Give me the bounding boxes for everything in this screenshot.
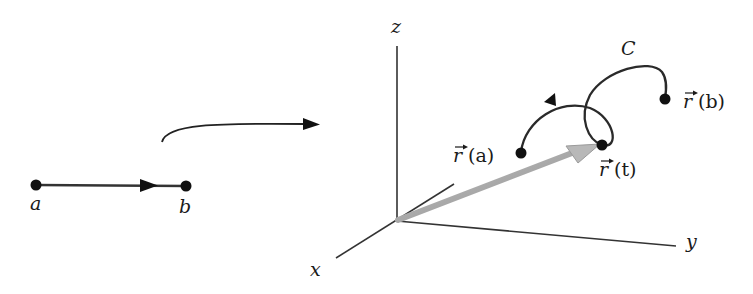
interval-end-label: b (179, 195, 191, 217)
curve-end-label-arg: (b) (698, 90, 725, 112)
curve-moving-point (597, 140, 608, 151)
position-vector (398, 144, 600, 220)
position-vector-arrowhead (566, 144, 600, 163)
x-axis-label: x (310, 258, 321, 280)
coordinate-axes: z y x (310, 15, 697, 280)
y-axis (397, 221, 676, 246)
diagram-canvas: a b z y x C r (a) (0, 0, 753, 294)
interval-start-point (31, 180, 42, 191)
mapping-arrowhead (303, 118, 320, 130)
curve-end-label: r (b) (683, 90, 725, 112)
curve-name-label: C (621, 37, 636, 59)
x-axis (336, 184, 454, 258)
interval-segment (36, 185, 186, 186)
curve-start-point (516, 148, 527, 159)
curve-direction-arrowhead (544, 93, 556, 106)
curve-point-label: r (t) (599, 158, 636, 180)
mapping-arrow-curve (162, 124, 305, 142)
interval-direction-arrowhead (140, 179, 158, 192)
curve-start-label: r (a) (453, 144, 494, 166)
space-curve: C r (a) r (t) r (b) (453, 37, 725, 180)
curve-point-label-arg: (t) (614, 158, 636, 180)
mapping-arrow (162, 118, 320, 142)
interval-start-label: a (30, 192, 41, 214)
parameter-interval: a b (30, 179, 192, 217)
curve-end-point (660, 94, 671, 105)
curve-start-label-arg: (a) (468, 144, 494, 166)
z-axis-label: z (390, 15, 402, 37)
y-axis-label: y (685, 230, 697, 252)
curve-segment-upper (585, 66, 666, 145)
interval-end-point (181, 181, 192, 192)
